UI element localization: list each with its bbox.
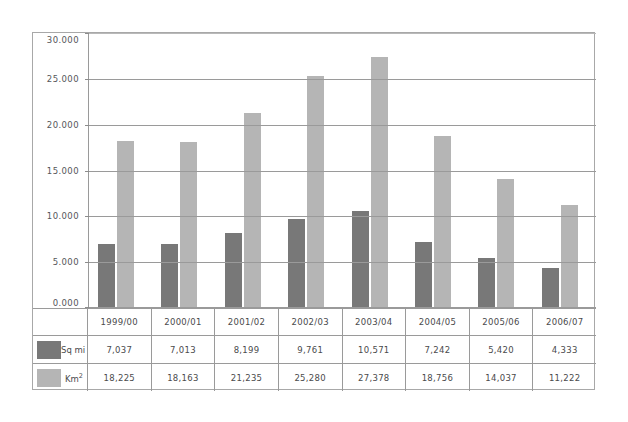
legend-label-sq-mi: Sq mi xyxy=(61,345,89,355)
bar-km2[interactable] xyxy=(497,179,514,308)
bar-km2[interactable] xyxy=(307,76,324,308)
value-cell-sq-mi: 8,199 xyxy=(215,336,279,363)
bar-km2[interactable] xyxy=(117,141,134,308)
y-axis-tick xyxy=(85,171,89,172)
category-cell: 2002/03 xyxy=(279,309,343,335)
legend-cell-sq-mi[interactable]: Sq mi xyxy=(33,336,88,363)
gridline xyxy=(89,262,596,263)
value-cell-sq-mi: 9,761 xyxy=(279,336,343,363)
y-axis-tick xyxy=(85,79,89,80)
gridline xyxy=(89,171,596,172)
gridline xyxy=(89,79,596,80)
legend-label-km2-text: Km xyxy=(65,373,79,383)
value-cell-sq-mi: 5,420 xyxy=(470,336,534,363)
data-table: 1999/002000/012001/022002/032003/042004/… xyxy=(33,308,596,391)
bar-sq-mi[interactable] xyxy=(415,242,432,308)
legend-label-km2: Km2 xyxy=(61,372,87,384)
bar-km2[interactable] xyxy=(561,205,578,308)
value-cell-km2: 14,037 xyxy=(470,364,534,391)
category-cell: 2004/05 xyxy=(406,309,470,335)
value-cell-km2: 27,378 xyxy=(343,364,407,391)
table-row-km2: Km2 18,22518,16321,23525,28027,37818,756… xyxy=(33,363,596,391)
bar-sq-mi[interactable] xyxy=(542,268,559,308)
gridline xyxy=(89,125,596,126)
gridline xyxy=(89,33,596,34)
legend-cell-empty xyxy=(33,309,88,335)
value-cell-sq-mi: 7,242 xyxy=(406,336,470,363)
chart-page: 30.00025.00020.00015.00010.0005.0000.000… xyxy=(0,0,628,422)
category-cell: 2006/07 xyxy=(533,309,596,335)
value-cell-sq-mi: 10,571 xyxy=(343,336,407,363)
y-axis-tick-label: 10.000 xyxy=(47,211,79,221)
y-axis-tick-label: 5.000 xyxy=(53,257,79,267)
category-cell: 2003/04 xyxy=(343,309,407,335)
bar-km2[interactable] xyxy=(371,57,388,308)
y-axis-tick-label: 0.000 xyxy=(53,298,79,308)
category-cell: 2001/02 xyxy=(215,309,279,335)
value-cell-km2: 18,756 xyxy=(406,364,470,391)
y-axis-tick-label: 30.000 xyxy=(47,35,79,45)
category-cell: 2005/06 xyxy=(470,309,534,335)
bar-km2[interactable] xyxy=(244,113,261,308)
value-cell-sq-mi: 7,013 xyxy=(152,336,216,363)
plot-area xyxy=(88,33,596,308)
y-axis-labels: 30.00025.00020.00015.00010.0005.0000.000 xyxy=(33,33,88,308)
y-axis-tick-label: 20.000 xyxy=(47,120,79,130)
value-cell-km2: 11,222 xyxy=(533,364,596,391)
bar-sq-mi[interactable] xyxy=(225,233,242,308)
legend-label-km2-superscript: 2 xyxy=(79,372,83,380)
category-cell: 1999/00 xyxy=(88,309,152,335)
y-axis-tick-label: 25.000 xyxy=(47,74,79,84)
bar-sq-mi[interactable] xyxy=(288,219,305,308)
value-cell-sq-mi: 4,333 xyxy=(533,336,596,363)
bar-sq-mi[interactable] xyxy=(352,211,369,308)
legend-swatch-km2 xyxy=(37,369,61,387)
y-axis-tick xyxy=(85,125,89,126)
value-cell-km2: 18,163 xyxy=(152,364,216,391)
value-cell-km2: 21,235 xyxy=(215,364,279,391)
table-row-sq-mi: Sq mi 7,0377,0138,1999,76110,5717,2425,4… xyxy=(33,335,596,363)
category-cell: 2000/01 xyxy=(152,309,216,335)
table-row-categories: 1999/002000/012001/022002/032003/042004/… xyxy=(33,308,596,335)
bar-km2[interactable] xyxy=(180,142,197,308)
y-axis-tick xyxy=(85,33,89,34)
bar-km2[interactable] xyxy=(434,136,451,308)
y-axis-tick xyxy=(85,216,89,217)
bar-sq-mi[interactable] xyxy=(161,244,178,308)
value-cell-km2: 18,225 xyxy=(88,364,152,391)
chart-area: 30.00025.00020.00015.00010.0005.0000.000 xyxy=(33,33,596,308)
value-cell-sq-mi: 7,037 xyxy=(88,336,152,363)
bar-sq-mi[interactable] xyxy=(478,258,495,308)
bar-sq-mi[interactable] xyxy=(98,244,115,309)
y-axis-tick xyxy=(85,262,89,263)
chart-frame: 30.00025.00020.00015.00010.0005.0000.000… xyxy=(32,32,595,390)
gridline xyxy=(89,216,596,217)
y-axis-tick-label: 15.000 xyxy=(47,166,79,176)
legend-cell-km2[interactable]: Km2 xyxy=(33,364,88,391)
legend-swatch-sq-mi xyxy=(37,341,61,359)
value-cell-km2: 25,280 xyxy=(279,364,343,391)
